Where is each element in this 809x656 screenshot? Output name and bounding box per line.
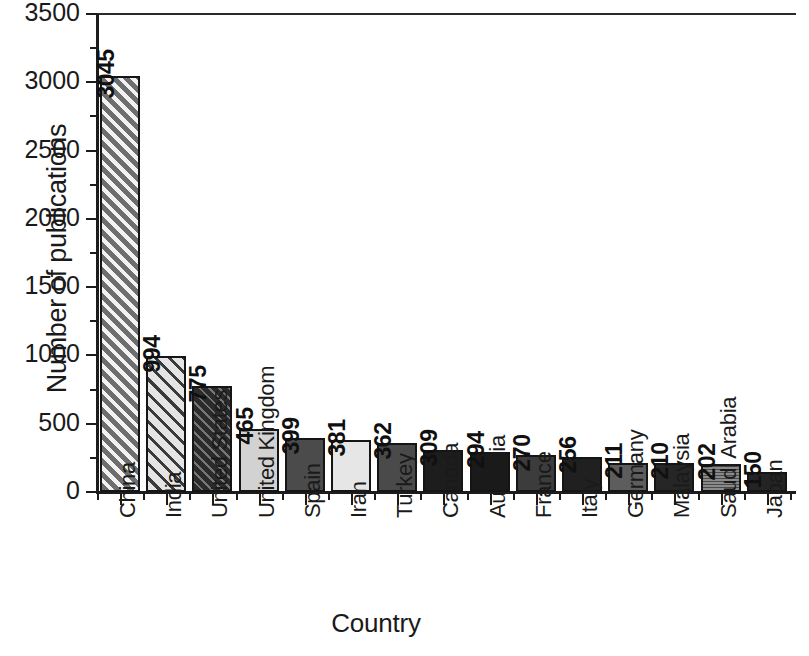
- x-category-label: France: [533, 451, 555, 518]
- x-category-label: Saudi Arabia: [718, 397, 740, 518]
- x-category-label: Italy: [579, 479, 601, 518]
- x-tick-minor: [790, 493, 792, 500]
- x-tick-minor: [282, 493, 284, 500]
- bar-value-label: 399: [278, 401, 305, 471]
- x-category-label: Malaysia: [671, 434, 693, 518]
- x-category-label: Canada: [440, 443, 462, 518]
- x-tick-minor: [189, 493, 191, 500]
- x-tick-minor: [467, 493, 469, 500]
- x-tick-minor: [420, 493, 422, 500]
- x-category-label: China: [117, 462, 139, 518]
- x-category-label: Australia: [487, 435, 509, 518]
- x-tick-minor: [97, 493, 99, 500]
- x-category-label: United States: [209, 390, 231, 518]
- x-tick-minor: [374, 493, 376, 500]
- x-axis-title: Country: [96, 608, 656, 639]
- x-category-label: Spain: [302, 463, 324, 518]
- bar-value-label: 994: [139, 319, 166, 389]
- x-tick-minor: [236, 493, 238, 500]
- x-category-label: Iran: [348, 481, 370, 518]
- bar-value-label: 381: [324, 403, 351, 473]
- x-category-label: India: [163, 472, 185, 518]
- x-category-label: United Kingdom: [256, 366, 278, 518]
- x-tick-minor: [143, 493, 145, 500]
- x-tick-minor: [559, 493, 561, 500]
- bar-value-label: 3045: [93, 39, 120, 109]
- x-category-label: Japan: [764, 460, 786, 518]
- x-tick-minor: [513, 493, 515, 500]
- bars-layer: 3045994775465399381362309294270256211210…: [0, 0, 809, 492]
- bar-chart-figure: Number of publications Country 050010001…: [0, 0, 809, 656]
- x-tick-minor: [328, 493, 330, 500]
- x-category-label: Turkey: [394, 453, 416, 518]
- bar: [100, 76, 140, 492]
- x-category-label: Germany: [625, 430, 647, 518]
